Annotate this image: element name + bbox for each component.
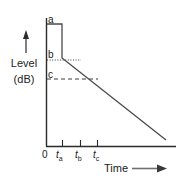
decay-curve — [47, 24, 166, 140]
level-label-c: c — [48, 70, 53, 80]
x-axis-label-time: Time — [104, 163, 128, 174]
x-tick-label-origin: 0 — [42, 150, 48, 160]
y-axis-label-level: Level — [5, 58, 43, 69]
x-tick-label-tb: tb — [75, 150, 82, 162]
x-axis-ticks — [63, 140, 98, 146]
x-tick-label-ta: ta — [56, 150, 63, 162]
x-tick-ta-sub: a — [59, 155, 63, 162]
reverberation-decay-chart: Level (dB) Time a b c 0 ta tb tc — [0, 0, 176, 182]
x-tick-tc-sub: c — [96, 155, 100, 162]
right-arrow-icon — [132, 165, 167, 173]
chart-plot-area — [0, 0, 176, 182]
y-axis-label-units: (dB) — [5, 74, 43, 85]
x-tick-label-tc: tc — [93, 150, 99, 162]
level-label-b: b — [48, 50, 54, 60]
up-arrow-icon — [23, 30, 29, 53]
level-label-a: a — [48, 15, 54, 25]
x-tick-tb-sub: b — [78, 155, 82, 162]
